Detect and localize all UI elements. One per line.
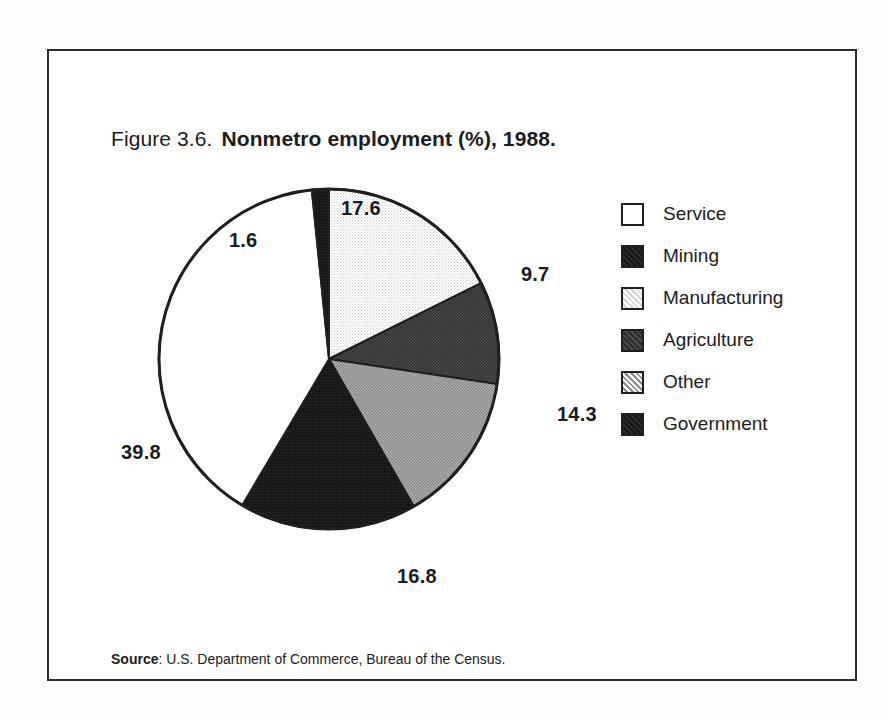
slice-label-government: 16.8: [397, 565, 437, 588]
pie-svg: [157, 187, 501, 531]
legend-item-government[interactable]: Government: [621, 403, 836, 445]
source-label: Source: [111, 651, 158, 667]
source-note: Source: U.S. Department of Commerce, Bur…: [111, 651, 506, 667]
figure-number: Figure 3.6.: [111, 127, 213, 150]
legend-label: Manufacturing: [663, 287, 783, 309]
legend-item-agriculture[interactable]: Agriculture: [621, 319, 836, 361]
legend-label: Service: [663, 203, 726, 225]
pie-slice-manufacturing: [329, 189, 481, 359]
legend-item-mining[interactable]: Mining: [621, 235, 836, 277]
legend-label: Government: [663, 413, 768, 435]
source-text: U.S. Department of Commerce, Bureau of t…: [162, 651, 505, 667]
pie-slices: [159, 189, 499, 529]
pie-slice-mining: [312, 189, 329, 359]
slice-label-service: 39.8: [121, 441, 161, 464]
slice-label-agriculture: 9.7: [521, 263, 549, 286]
pie-slice-agriculture: [329, 283, 499, 384]
slice-label-manufacturing: 17.6: [341, 197, 381, 220]
legend-swatch-other: [621, 371, 644, 394]
figure-caption: Nonmetro employment (%), 1988.: [222, 127, 556, 150]
scanned-page: Figure 3.6.Nonmetro employment (%), 1988…: [0, 0, 888, 718]
figure-title: Figure 3.6.Nonmetro employment (%), 1988…: [111, 127, 556, 151]
pie-slice-other: [329, 359, 497, 506]
legend-label: Mining: [663, 245, 719, 267]
legend-swatch-manufacturing: [621, 287, 644, 310]
legend: ServiceMiningManufacturingAgricultureOth…: [621, 193, 836, 445]
legend-swatch-government: [621, 413, 644, 436]
legend-label: Agriculture: [663, 329, 754, 351]
legend-swatch-service: [621, 203, 644, 226]
pie-slice-government: [242, 359, 414, 529]
legend-swatch-mining: [621, 245, 644, 268]
pie-slice-service: [159, 190, 329, 505]
legend-swatch-agriculture: [621, 329, 644, 352]
pie-graphic: [157, 187, 501, 531]
legend-label: Other: [663, 371, 711, 393]
legend-item-manufacturing[interactable]: Manufacturing: [621, 277, 836, 319]
legend-item-other[interactable]: Other: [621, 361, 836, 403]
slice-label-other: 14.3: [557, 403, 597, 426]
legend-item-service[interactable]: Service: [621, 193, 836, 235]
pie-outline: [159, 189, 499, 529]
slice-label-mining: 1.6: [229, 229, 257, 252]
figure-frame: Figure 3.6.Nonmetro employment (%), 1988…: [47, 49, 857, 681]
